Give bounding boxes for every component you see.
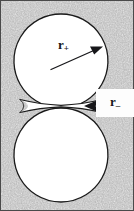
- label-particle-radius: r+: [58, 38, 69, 53]
- label-neck-radius-subscript: –: [116, 100, 121, 110]
- sintering-particles-figure: r+ r–: [0, 0, 134, 211]
- upper-particle-circle: [14, 14, 108, 108]
- label-neck-radius: r–: [110, 95, 120, 110]
- lower-particle-circle: [14, 108, 108, 202]
- label-particle-radius-subscript: +: [64, 43, 69, 53]
